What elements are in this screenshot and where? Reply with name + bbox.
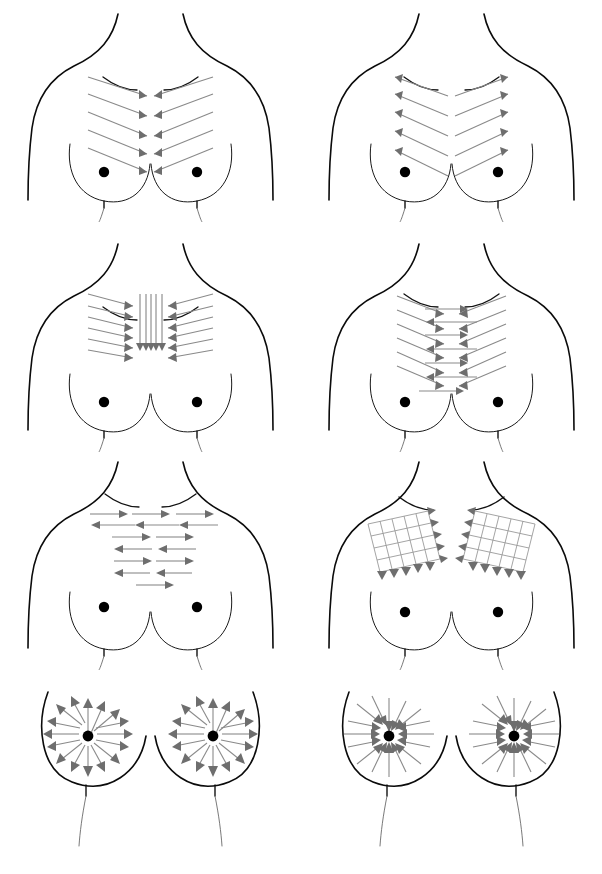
panel-chevron-inward — [0, 4, 301, 222]
panel-radial-inward — [301, 664, 602, 874]
panel-chevron-horizontal — [301, 234, 602, 452]
breast-outlines — [343, 692, 560, 846]
nipple-markers — [99, 397, 202, 407]
crosshatch-grid-left — [368, 507, 448, 580]
panel-radial-outward — [0, 664, 301, 874]
torso-outline — [28, 14, 273, 222]
nipple-markers — [400, 397, 503, 407]
clavicle-lines — [105, 494, 196, 507]
vertical-midline-strokes — [136, 294, 166, 351]
nipple-markers — [99, 167, 202, 177]
clavicle-lines — [399, 497, 504, 510]
chevron-strokes-inward — [397, 296, 506, 390]
horizontal-alternating-strokes — [90, 510, 218, 589]
nipple-markers — [99, 602, 202, 612]
crosshatch-grid-right — [455, 507, 535, 580]
clavicle-lines — [103, 77, 198, 90]
panel-crosshatch-grid — [301, 452, 602, 670]
torso-outline — [329, 462, 574, 670]
panel-horizontal-alternating — [0, 452, 301, 670]
chevron-strokes-inward — [88, 77, 213, 175]
nipple-markers — [400, 167, 503, 177]
clavicle-lines — [404, 294, 499, 307]
diagram-sheet — [0, 0, 602, 874]
panel-chevron-outward — [301, 4, 602, 222]
torso-outline — [28, 462, 273, 670]
torso-outline — [329, 14, 574, 222]
panel-converging-diagonal-vertical — [0, 234, 301, 452]
chevron-strokes-outward — [395, 74, 508, 176]
torso-outline — [329, 244, 574, 452]
nipple-markers — [83, 731, 219, 742]
clavicle-lines — [404, 77, 499, 90]
